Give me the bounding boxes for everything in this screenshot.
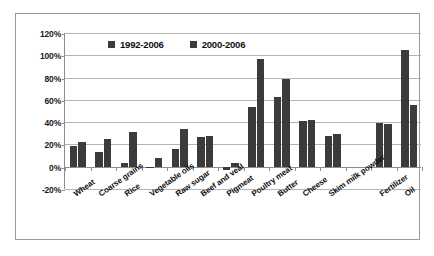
gridline: 40%: [65, 122, 421, 123]
bar: [197, 137, 205, 167]
y-axis-tick-mark: [62, 79, 65, 80]
chart-legend: 1992-2006 2000-2006: [108, 39, 245, 50]
legend-label: 2000-2006: [202, 39, 246, 50]
x-axis-tick-mark: [320, 167, 321, 171]
bar: [129, 132, 137, 167]
bar: [121, 163, 129, 166]
bar: [70, 146, 78, 167]
y-axis-tick-label: 120%: [40, 29, 61, 39]
legend-swatch-icon: [108, 41, 115, 48]
y-axis-tick-label: -20%: [42, 185, 61, 195]
x-axis-tick-mark: [422, 167, 423, 171]
bar: [206, 136, 214, 167]
x-axis-tick-mark: [397, 167, 398, 171]
bar: [248, 107, 256, 167]
legend-swatch-icon: [190, 41, 197, 48]
x-axis-tick-mark: [91, 167, 92, 171]
y-axis-tick-label: 80%: [45, 74, 61, 84]
legend-item-series-2: 2000-2006: [190, 39, 246, 50]
bar: [78, 142, 86, 167]
y-axis-tick-label: 60%: [45, 96, 61, 106]
chart-container: 120%100%80%60%40%20%0%-20% WheatCoarse g…: [0, 0, 434, 256]
y-axis-tick-label: 40%: [45, 118, 61, 128]
x-axis-tick-mark: [295, 167, 296, 171]
y-axis-tick-mark: [62, 190, 65, 191]
legend-label: 1992-2006: [120, 39, 164, 50]
bar: [410, 105, 418, 166]
bar: [308, 120, 316, 167]
bar: [299, 121, 307, 167]
legend-item-series-1: 1992-2006: [108, 39, 164, 50]
gridline: 60%: [65, 100, 421, 101]
bar: [282, 79, 290, 167]
gridline: 80%: [65, 78, 421, 79]
bar: [401, 50, 409, 167]
x-axis-tick-mark: [269, 167, 270, 171]
bar: [257, 59, 265, 167]
chart-frame: 120%100%80%60%40%20%0%-20% WheatCoarse g…: [15, 13, 420, 240]
bar: [180, 129, 188, 167]
y-axis-tick-mark: [62, 123, 65, 124]
bar: [172, 149, 180, 167]
bar: [146, 167, 154, 168]
gridline: 120%: [65, 33, 421, 34]
y-axis-tick-label: 0%: [49, 163, 61, 173]
x-axis-tick-mark: [218, 167, 219, 171]
bar: [325, 136, 333, 167]
y-axis-tick-label: 100%: [40, 51, 61, 61]
bar: [95, 152, 103, 166]
y-axis-tick-mark: [62, 34, 65, 35]
gridline: 20%: [65, 144, 421, 145]
bar: [274, 97, 282, 167]
y-axis-tick-mark: [62, 101, 65, 102]
x-axis-tick-mark: [167, 167, 168, 171]
y-axis-tick-mark: [62, 56, 65, 57]
x-axis-tick-mark: [65, 167, 66, 171]
x-axis-tick-mark: [346, 167, 347, 171]
gridline: 100%: [65, 55, 421, 56]
bar: [333, 134, 341, 167]
y-axis-tick-label: 20%: [45, 140, 61, 150]
bar: [155, 158, 163, 167]
bar: [104, 139, 112, 167]
y-axis-tick-mark: [62, 145, 65, 146]
x-axis-tick-mark: [116, 167, 117, 171]
